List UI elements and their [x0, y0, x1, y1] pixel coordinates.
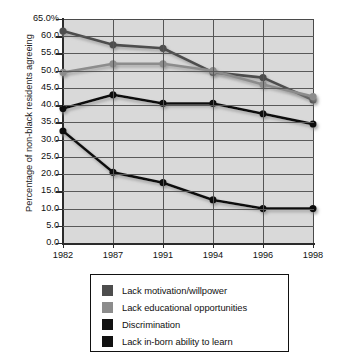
y-tick-label: 15.0	[23, 185, 59, 195]
y-tick-label: 30.0	[23, 134, 59, 144]
y-tick-label: 0.0	[23, 237, 59, 247]
chart-legend: Lack motivation/willpowerLack educationa…	[90, 274, 289, 352]
y-tick-mark	[56, 19, 62, 20]
legend-label: Lack motivation/willpower	[122, 285, 227, 296]
y-axis-labels: 65.0%60.055.050.045.040.035.030.025.020.…	[0, 0, 59, 362]
vertical-gridline	[113, 19, 114, 243]
legend-swatch-icon	[102, 302, 113, 313]
horizontal-gridline	[63, 88, 314, 89]
legend-label: Lack in-born ability to learn	[122, 336, 233, 347]
y-tick-mark	[56, 71, 62, 72]
y-tick-label: 25.0	[23, 151, 59, 161]
x-axis-line	[62, 243, 315, 245]
plot-border-top	[63, 19, 314, 20]
horizontal-gridline	[63, 53, 314, 54]
vertical-gridline	[263, 19, 264, 243]
vertical-gridline	[163, 19, 164, 243]
legend-swatch-icon	[102, 319, 113, 330]
horizontal-gridline	[63, 226, 314, 227]
horizontal-gridline	[63, 122, 314, 123]
horizontal-gridline	[63, 209, 314, 210]
x-tick-mark	[163, 243, 164, 248]
y-tick-mark	[56, 226, 62, 227]
y-tick-mark	[56, 36, 62, 37]
y-tick-mark	[56, 53, 62, 54]
x-tick-mark	[263, 243, 264, 248]
horizontal-gridline	[63, 105, 314, 106]
y-tick-label: 45.0	[23, 82, 59, 92]
y-tick-label: 55.0	[23, 47, 59, 57]
y-tick-mark	[56, 140, 62, 141]
x-tick-label: 1994	[188, 250, 238, 260]
vertical-gridline	[213, 19, 214, 243]
chart-root: Percentage of non-black residents agreei…	[0, 0, 337, 362]
y-tick-label: 60.0	[23, 30, 59, 40]
y-tick-label: 20.0	[23, 168, 59, 178]
legend-item: Lack motivation/willpower	[102, 282, 227, 298]
x-tick-label: 1991	[138, 250, 188, 260]
y-tick-mark	[56, 191, 62, 192]
y-tick-mark	[56, 122, 62, 123]
x-tick-mark	[63, 243, 64, 248]
y-tick-mark	[56, 174, 62, 175]
legend-item: Discrimination	[102, 316, 180, 332]
y-tick-mark	[56, 105, 62, 106]
y-tick-label: 40.0	[23, 99, 59, 109]
x-tick-label: 1998	[288, 250, 337, 260]
y-tick-mark	[56, 243, 62, 244]
y-tick-mark	[56, 88, 62, 89]
x-tick-label: 1982	[38, 250, 88, 260]
y-tick-label: 5.0	[23, 220, 59, 230]
y-tick-label: 10.0	[23, 203, 59, 213]
horizontal-gridline	[63, 174, 314, 175]
x-tick-mark	[213, 243, 214, 248]
y-tick-label: 65.0%	[23, 13, 59, 23]
legend-label: Lack educational opportunities	[122, 302, 247, 313]
y-axis-line	[62, 18, 64, 244]
x-tick-label: 1987	[88, 250, 138, 260]
x-tick-mark	[313, 243, 314, 248]
y-tick-mark	[56, 157, 62, 158]
legend-item: Lack in-born ability to learn	[102, 333, 233, 349]
x-tick-label: 1996	[238, 250, 288, 260]
legend-swatch-icon	[102, 285, 113, 296]
horizontal-gridline	[63, 140, 314, 141]
legend-label: Discrimination	[122, 319, 180, 330]
x-tick-mark	[113, 243, 114, 248]
legend-swatch-icon	[102, 336, 113, 347]
y-tick-label: 35.0	[23, 116, 59, 126]
horizontal-gridline	[63, 157, 314, 158]
horizontal-gridline	[63, 71, 314, 72]
legend-item: Lack educational opportunities	[102, 299, 247, 315]
y-tick-label: 50.0	[23, 65, 59, 75]
horizontal-gridline	[63, 36, 314, 37]
horizontal-gridline	[63, 191, 314, 192]
y-tick-mark	[56, 209, 62, 210]
